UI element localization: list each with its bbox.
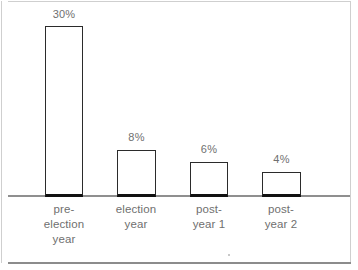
bar-election-year <box>117 150 156 197</box>
x-axis-category-label: post- year 2 <box>242 202 320 232</box>
bar-post-year-2 <box>262 172 301 197</box>
bar-value-label: 30% <box>45 8 83 20</box>
bar-post-year-1 <box>190 162 228 197</box>
bar-pre-election-year <box>45 26 83 197</box>
x-axis-category-label: post- year 1 <box>170 202 248 232</box>
scan-artifact-speck <box>228 254 230 256</box>
bar-value-label: 6% <box>190 143 228 155</box>
plot-area: 30% 8% 6% 4% pre- election year election… <box>0 0 358 200</box>
x-axis-category-label: election year <box>97 202 175 232</box>
bar-value-label: 8% <box>117 131 156 143</box>
x-axis-category-label: pre- election year <box>25 202 103 247</box>
bar-chart-figure: 30% 8% 6% 4% pre- election year election… <box>0 0 358 270</box>
bar-value-label: 4% <box>262 153 301 165</box>
figure-border-bottom <box>8 262 351 264</box>
